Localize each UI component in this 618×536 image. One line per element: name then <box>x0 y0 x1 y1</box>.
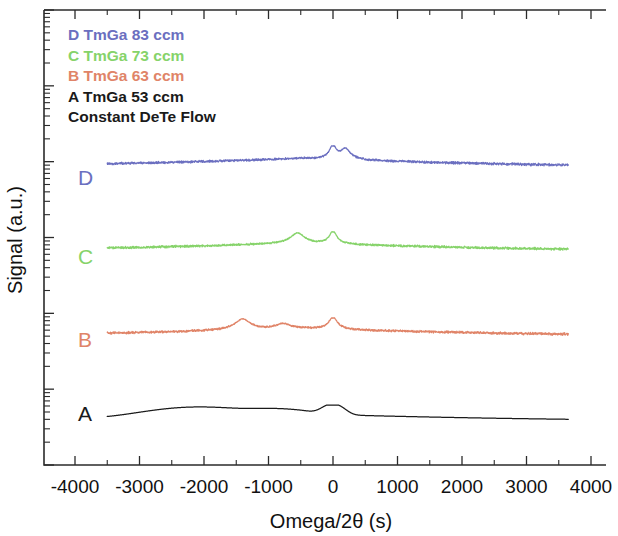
x-tick-label: -2000 <box>180 476 229 497</box>
x-tick-label: -3000 <box>115 476 164 497</box>
data-traces <box>107 146 568 420</box>
x-axis-title: Omega/2θ (s) <box>270 510 392 532</box>
y-axis-ticks <box>44 10 54 465</box>
legend: D TmGa 83 ccmC TmGa 73 ccmB TmGa 63 ccmA… <box>68 26 217 125</box>
trace-a <box>107 405 568 419</box>
plot-canvas: -4000-3000-2000-100001000200030004000 DC… <box>0 0 618 536</box>
x-tick-label: 3000 <box>505 476 547 497</box>
legend-entry-4: Constant DeTe Flow <box>68 108 217 125</box>
legend-entry-3: A TmGa 53 ccm <box>68 88 184 105</box>
x-tick-label: 1000 <box>376 476 418 497</box>
curve-label-a: A <box>78 402 92 425</box>
legend-entry-1: C TmGa 73 ccm <box>68 47 184 64</box>
legend-entry-2: B TmGa 63 ccm <box>68 67 184 84</box>
trace-c <box>107 232 568 250</box>
legend-entry-0: D TmGa 83 ccm <box>68 26 184 43</box>
x-tick-label: -1000 <box>244 476 293 497</box>
x-tick-label: 2000 <box>441 476 483 497</box>
curve-label-d: D <box>78 166 93 189</box>
x-axis-tick-labels: -4000-3000-2000-100001000200030004000 <box>51 476 612 497</box>
curve-label-c: C <box>78 245 93 268</box>
x-tick-label: -4000 <box>51 476 100 497</box>
y-axis-title: Signal (a.u.) <box>4 186 26 294</box>
curve-label-b: B <box>78 328 92 351</box>
trace-b <box>107 318 568 336</box>
x-tick-label: 4000 <box>570 476 612 497</box>
xrd-rocking-curve-figure: -4000-3000-2000-100001000200030004000 DC… <box>0 0 618 536</box>
trace-d <box>107 146 568 166</box>
curve-labels: DCBA <box>78 166 93 425</box>
x-tick-label: 0 <box>328 476 339 497</box>
